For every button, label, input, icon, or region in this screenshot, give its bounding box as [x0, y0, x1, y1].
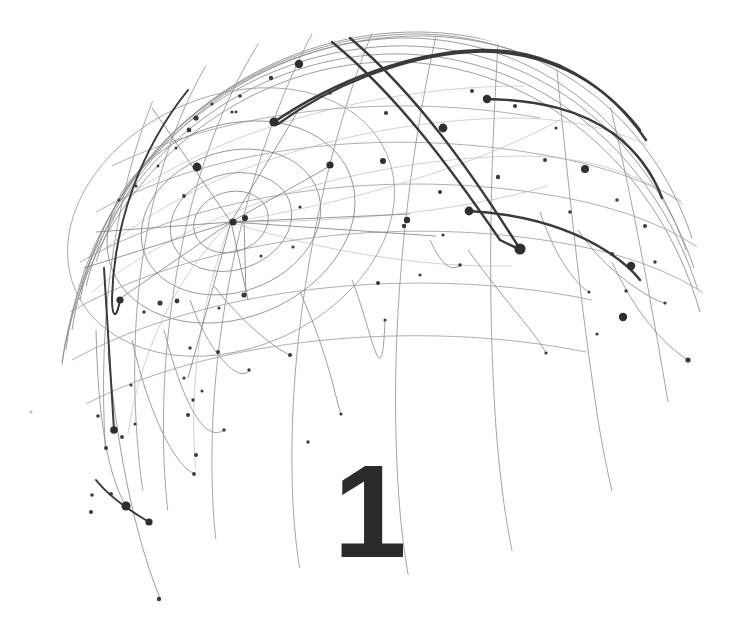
node-dot	[685, 357, 690, 362]
node-dot	[619, 313, 627, 321]
node-dot	[663, 301, 666, 304]
chapter-number: 1	[0, 452, 738, 572]
node-dot	[104, 446, 108, 450]
node-dot	[129, 383, 132, 386]
faint-arcs	[92, 86, 704, 470]
node-dot	[242, 215, 248, 221]
node-dot	[217, 306, 220, 309]
node-dot	[404, 217, 410, 223]
node-dot	[496, 175, 500, 179]
node-dot	[295, 60, 303, 68]
node-dot	[188, 346, 191, 349]
node-dot	[241, 292, 246, 297]
node-dot	[230, 110, 233, 113]
node-dot	[339, 412, 342, 415]
node-dot	[182, 376, 185, 379]
chapter-opener-page: 1	[0, 0, 738, 642]
node-dot	[116, 296, 123, 303]
node-dot	[376, 281, 380, 285]
node-dot	[568, 210, 572, 214]
node-dot	[182, 194, 186, 198]
node-dot	[470, 89, 474, 93]
node-dot	[235, 111, 238, 114]
node-dot	[384, 111, 388, 115]
node-dot	[133, 422, 136, 425]
node-dot	[439, 124, 448, 133]
node-dot	[175, 299, 180, 304]
node-dot	[624, 289, 627, 292]
node-dot	[615, 198, 619, 202]
node-dot	[247, 368, 250, 371]
node-dot	[610, 252, 614, 256]
node-dot	[229, 218, 236, 225]
node-dot	[543, 158, 547, 162]
node-dot	[110, 426, 118, 434]
node-dot	[326, 161, 333, 168]
node-dot	[191, 398, 194, 401]
node-dot	[328, 91, 332, 95]
node-dot	[514, 243, 525, 254]
node-dot	[134, 184, 137, 187]
node-dot	[380, 158, 386, 164]
node-dot	[30, 411, 33, 414]
node-dot	[402, 224, 406, 228]
node-dot	[260, 255, 263, 258]
node-dot	[465, 207, 474, 216]
node-dot	[175, 147, 178, 150]
node-dot	[595, 332, 598, 335]
node-dot	[288, 353, 292, 357]
node-dot	[187, 128, 192, 133]
node-dot	[458, 263, 462, 267]
node-dot	[193, 163, 202, 172]
node-dot	[643, 224, 647, 228]
node-dot	[544, 351, 547, 354]
node-dot	[238, 94, 242, 98]
node-dot	[222, 428, 225, 431]
node-dot	[441, 233, 444, 236]
node-dot	[291, 245, 294, 248]
bold-emphasis-arcs	[274, 38, 662, 280]
node-dot	[120, 435, 124, 439]
node-dot	[118, 199, 121, 202]
node-dot	[483, 95, 491, 103]
node-dot	[157, 300, 162, 305]
node-dot	[157, 597, 161, 601]
node-dot	[186, 413, 190, 417]
node-dot	[269, 117, 278, 126]
node-dot	[269, 76, 273, 80]
node-dot	[554, 126, 557, 129]
node-dot	[653, 260, 656, 263]
node-dot	[383, 318, 386, 321]
node-dot	[581, 165, 589, 173]
node-dot	[588, 291, 591, 294]
node-dot	[438, 190, 442, 194]
node-dot	[157, 165, 160, 168]
node-dot	[193, 115, 198, 120]
node-dot	[418, 273, 421, 276]
node-dot	[513, 104, 517, 108]
node-dot	[210, 102, 213, 105]
node-dot	[96, 414, 100, 418]
node-dot	[142, 310, 145, 313]
node-dot	[627, 262, 635, 270]
node-dot	[306, 440, 309, 443]
node-dot	[201, 390, 204, 393]
node-dot	[216, 350, 220, 354]
node-dot	[298, 205, 301, 208]
